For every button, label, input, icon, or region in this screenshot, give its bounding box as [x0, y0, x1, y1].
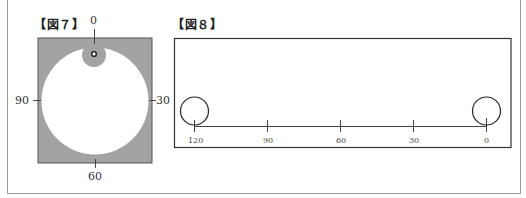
figure7-pivot-dot [92, 52, 97, 57]
figure8-scale-label-30: 30 [409, 137, 419, 145]
figure8-title: 【図８】 [172, 19, 222, 31]
figure8-scale-label-60: 60 [336, 137, 346, 145]
figure8-frame [175, 39, 512, 148]
figure7-label-left: 90 [15, 95, 29, 106]
figure8-scale-label-90: 90 [263, 137, 273, 145]
figure-page: 【図７】 0 30 60 90 【図８】 120 90 60 30 0 [0, 0, 526, 198]
figure8-scale-label-120: 120 [188, 137, 203, 145]
figure7-label-right: 30 [156, 95, 170, 106]
figure7-label-bottom: 60 [88, 171, 102, 182]
figure8-diagram [175, 39, 512, 148]
figure8-scale-label-0: 0 [484, 137, 489, 145]
figure7-title: 【図７】 [34, 19, 84, 31]
figure7-label-top: 0 [90, 15, 97, 26]
figure7-diagram [33, 29, 156, 168]
